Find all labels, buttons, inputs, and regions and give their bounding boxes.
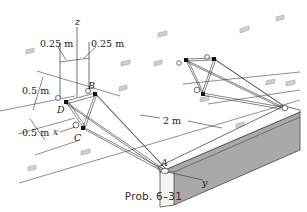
dimension-label-lower: 0.5 m	[22, 127, 49, 138]
y-axis-label: y	[201, 177, 208, 188]
point-label-B: B	[87, 80, 95, 91]
x-axis-label: x	[53, 126, 59, 137]
point-label-D: D	[56, 104, 65, 115]
joint-B	[93, 92, 97, 96]
figure-caption: Prob. 6–31	[0, 190, 307, 202]
point-label-A: A	[160, 157, 168, 168]
point-label-C: C	[74, 132, 82, 143]
dimension-label-upper: 0.5 m	[22, 85, 49, 96]
dimension-label-2m: 2 m	[163, 115, 181, 126]
dimension-label-right: 0.25 m	[91, 38, 124, 49]
support-A	[161, 169, 169, 174]
joint-C	[81, 126, 85, 130]
diagram-canvas: z 0.25 m 0.25 m 0.5 m 0.5 m 2 m	[0, 0, 307, 212]
dimension-label-left: 0.25 m	[40, 38, 73, 49]
z-axis-label: z	[74, 16, 81, 27]
truss-diagram: z 0.25 m 0.25 m 0.5 m 0.5 m 2 m	[0, 0, 307, 212]
left-truss-joints	[64, 92, 97, 130]
